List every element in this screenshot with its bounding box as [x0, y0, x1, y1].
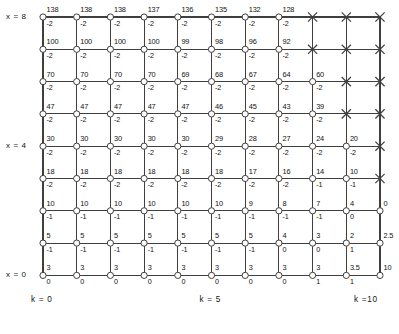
grid-node[interactable] — [310, 240, 316, 246]
grid-node[interactable] — [343, 272, 349, 278]
grid-node[interactable] — [276, 79, 282, 85]
grid-node[interactable] — [107, 46, 113, 52]
grid-node[interactable] — [310, 175, 316, 181]
grid-node[interactable] — [107, 111, 113, 117]
grid-node[interactable] — [141, 79, 147, 85]
grid-node[interactable] — [40, 208, 46, 214]
grid-node[interactable] — [141, 208, 147, 214]
node-delta-label: -1 — [47, 246, 53, 254]
grid-node[interactable] — [276, 240, 282, 246]
grid-node[interactable] — [310, 208, 316, 214]
grid-node[interactable] — [310, 79, 316, 85]
grid-node[interactable] — [141, 240, 147, 246]
grid-node[interactable] — [242, 272, 248, 278]
node-value-label: 10 — [215, 200, 223, 208]
grid-node[interactable] — [141, 14, 147, 20]
grid-node[interactable] — [175, 208, 181, 214]
grid-node[interactable] — [74, 79, 80, 85]
grid-node[interactable] — [74, 240, 80, 246]
grid-node[interactable] — [74, 14, 80, 20]
grid-node[interactable] — [208, 272, 214, 278]
grid-node[interactable] — [40, 111, 46, 117]
grid-node[interactable] — [107, 14, 113, 20]
grid-node[interactable] — [141, 111, 147, 117]
grid-node[interactable] — [175, 143, 181, 149]
node-value-label: 5 — [148, 232, 152, 240]
grid-node[interactable] — [208, 175, 214, 181]
grid-node[interactable] — [141, 272, 147, 278]
grid-node[interactable] — [40, 14, 46, 20]
grid-node[interactable] — [242, 175, 248, 181]
grid-node[interactable] — [40, 79, 46, 85]
grid-node[interactable] — [74, 46, 80, 52]
grid-node[interactable] — [208, 208, 214, 214]
grid-node[interactable] — [74, 143, 80, 149]
grid-node[interactable] — [343, 240, 349, 246]
grid-node[interactable] — [343, 175, 349, 181]
grid-node[interactable] — [276, 111, 282, 117]
node-delta-label: -2 — [181, 149, 187, 157]
grid-node[interactable] — [242, 14, 248, 20]
grid-node[interactable] — [175, 14, 181, 20]
grid-node[interactable] — [141, 143, 147, 149]
grid-node[interactable] — [276, 46, 282, 52]
grid-node[interactable] — [107, 208, 113, 214]
grid-node[interactable] — [310, 272, 316, 278]
grid-node[interactable] — [175, 175, 181, 181]
grid-node[interactable] — [242, 46, 248, 52]
grid-node[interactable] — [343, 143, 349, 149]
grid-node[interactable] — [107, 272, 113, 278]
grid-node[interactable] — [208, 111, 214, 117]
grid-node[interactable] — [40, 175, 46, 181]
node-value-label: 2 — [350, 232, 354, 240]
grid-node[interactable] — [208, 143, 214, 149]
node-delta-label: -1 — [215, 246, 221, 254]
node-value-label: 70 — [114, 71, 122, 79]
grid-node[interactable] — [276, 208, 282, 214]
grid-node[interactable] — [40, 46, 46, 52]
grid-node[interactable] — [343, 208, 349, 214]
node-value-label: 16 — [283, 168, 291, 176]
grid-node[interactable] — [74, 272, 80, 278]
node-delta-label: -1 — [80, 246, 86, 254]
node-value-label: 10 — [384, 264, 392, 272]
grid-node[interactable] — [242, 143, 248, 149]
grid-node[interactable] — [74, 175, 80, 181]
grid-node[interactable] — [208, 240, 214, 246]
grid-node[interactable] — [276, 14, 282, 20]
grid-node[interactable] — [175, 46, 181, 52]
grid-node[interactable] — [310, 111, 316, 117]
grid-node[interactable] — [242, 208, 248, 214]
grid-node[interactable] — [40, 240, 46, 246]
grid-node[interactable] — [175, 111, 181, 117]
grid-node[interactable] — [40, 143, 46, 149]
grid-node[interactable] — [141, 46, 147, 52]
grid-node[interactable] — [276, 272, 282, 278]
grid-node[interactable] — [242, 240, 248, 246]
grid-node[interactable] — [74, 208, 80, 214]
grid-node[interactable] — [242, 111, 248, 117]
grid-node[interactable] — [40, 272, 46, 278]
grid-node[interactable] — [208, 14, 214, 20]
grid-node[interactable] — [175, 79, 181, 85]
grid-node[interactable] — [74, 111, 80, 117]
grid-node[interactable] — [377, 208, 383, 214]
node-delta-label: 0 — [249, 278, 253, 286]
grid-node[interactable] — [377, 240, 383, 246]
grid-node[interactable] — [276, 175, 282, 181]
grid-node[interactable] — [208, 79, 214, 85]
grid-node[interactable] — [208, 46, 214, 52]
grid-node[interactable] — [107, 175, 113, 181]
grid-node[interactable] — [310, 143, 316, 149]
grid-node[interactable] — [107, 240, 113, 246]
node-value-label: 10 — [47, 200, 55, 208]
node-value-label: 138 — [114, 6, 126, 14]
grid-node[interactable] — [141, 175, 147, 181]
grid-node[interactable] — [377, 272, 383, 278]
grid-node[interactable] — [276, 143, 282, 149]
grid-node[interactable] — [242, 79, 248, 85]
grid-node[interactable] — [107, 79, 113, 85]
grid-node[interactable] — [175, 272, 181, 278]
grid-node[interactable] — [175, 240, 181, 246]
grid-node[interactable] — [107, 143, 113, 149]
